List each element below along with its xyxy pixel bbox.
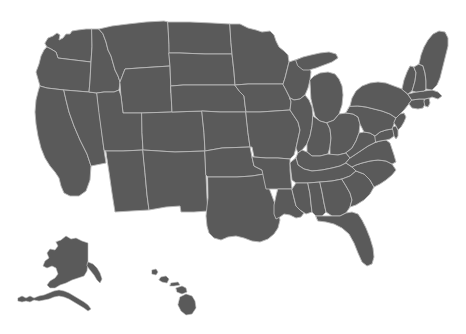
state-nm[interactable]	[143, 150, 208, 212]
hawaii-maui[interactable]	[176, 286, 187, 294]
state-mo[interactable]	[246, 110, 300, 159]
alaska-inset[interactable]	[18, 236, 102, 311]
state-fl[interactable]	[316, 212, 374, 266]
state-az[interactable]	[106, 150, 149, 212]
alaska-panhandle[interactable]	[87, 262, 102, 283]
state-wy[interactable]	[120, 66, 172, 113]
state-co[interactable]	[142, 111, 205, 152]
state-ak[interactable]	[43, 236, 88, 288]
state-mn[interactable]	[230, 24, 289, 85]
state-nd[interactable]	[168, 22, 232, 54]
alaska-aleutian-chain[interactable]	[18, 290, 91, 311]
hawaii-big-island[interactable]	[178, 294, 196, 315]
us-map-graphic	[0, 0, 466, 334]
state-ne[interactable]	[171, 85, 246, 112]
hawaii-oahu[interactable]	[159, 276, 169, 283]
state-ct[interactable]	[409, 99, 425, 109]
state-ks[interactable]	[202, 111, 250, 151]
hawaii-kauai[interactable]	[152, 269, 158, 275]
us-map-container	[0, 0, 466, 334]
state-mi-upper[interactable]	[296, 52, 338, 70]
contiguous-states-group	[35, 21, 448, 266]
hawaii-inset[interactable]	[152, 269, 196, 315]
hawaii-molokai[interactable]	[170, 282, 180, 286]
